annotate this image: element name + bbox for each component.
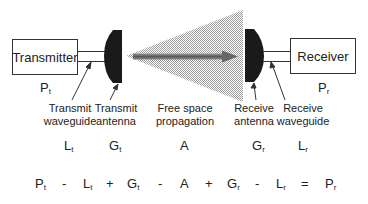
stage-label-transmit-antenna: Transmit antenna (88, 102, 144, 128)
transmit-antenna-icon (104, 30, 122, 83)
link-budget-diagram: Transmitter Receiver Pt Pr Transmit wave… (0, 0, 368, 204)
eq-term-lr: Lr (276, 176, 286, 192)
stage-label-free-space: Free space propagation (150, 102, 220, 128)
eq-op: + (106, 176, 114, 191)
eq-op: - (62, 176, 66, 191)
eq-op-equals: = (301, 176, 309, 191)
symbol-transmit-waveguide-loss: Lt (64, 138, 73, 154)
stage-label-receive-waveguide: Receive waveguide (272, 102, 334, 128)
transmit-waveguide-lines (78, 52, 105, 62)
transmit-power-symbol: Pt (40, 80, 51, 96)
receive-waveguide-lines (263, 52, 290, 62)
eq-term-pt: Pt (35, 176, 46, 192)
eq-term-gr: Gr (227, 176, 240, 192)
receiver-label: Receiver (297, 49, 348, 64)
eq-op: - (158, 176, 162, 191)
transmitter-label: Transmitter (12, 50, 77, 65)
symbol-free-space-attenuation: A (180, 138, 189, 153)
link-budget-equation: Pt - Lt + Gt - A + Gr - Lr = Pr (0, 176, 368, 196)
symbol-transmit-antenna-gain: Gt (109, 138, 121, 154)
eq-term-pr: Pr (325, 176, 336, 192)
eq-term-a: A (180, 176, 189, 191)
eq-term-lt: Lt (83, 176, 92, 192)
receive-antenna-icon (245, 29, 264, 82)
eq-op: - (255, 176, 259, 191)
receive-power-symbol: Pr (318, 80, 329, 96)
symbol-receive-waveguide-loss: Lr (298, 138, 308, 154)
symbol-receive-antenna-gain: Gr (252, 138, 265, 154)
eq-term-gt: Gt (127, 176, 139, 192)
eq-op: + (205, 176, 213, 191)
transmitter-block: Transmitter (12, 39, 78, 75)
receiver-block: Receiver (290, 38, 356, 74)
